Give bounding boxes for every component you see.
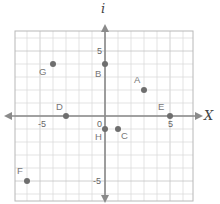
x-tick-label: -5 xyxy=(38,119,46,129)
y-axis-title: i xyxy=(101,1,105,16)
x-axis-left-arrow-icon xyxy=(4,112,12,120)
x-tick-label: 5 xyxy=(168,119,173,129)
point-label-h: H xyxy=(95,131,102,142)
point-g xyxy=(50,61,56,67)
point-a xyxy=(141,87,147,93)
coordinate-plane: -5055-5 ABCDEFGH X i xyxy=(0,0,220,204)
y-axis-down-arrow-icon xyxy=(101,195,109,203)
point-d xyxy=(63,113,69,119)
point-label-f: F xyxy=(17,165,23,176)
point-h xyxy=(102,126,108,132)
point-label-c: C xyxy=(121,130,128,141)
y-axis-up-arrow-icon xyxy=(101,24,109,32)
x-axis-title: X xyxy=(203,108,214,123)
y-tick-label: 5 xyxy=(97,46,102,56)
point-label-g: G xyxy=(39,66,46,77)
x-tick-label: 0 xyxy=(97,119,102,129)
y-tick-label: -5 xyxy=(93,176,101,186)
point-e xyxy=(167,113,173,119)
point-f xyxy=(24,178,30,184)
x-axis-right-arrow-icon xyxy=(195,112,203,120)
point-label-b: B xyxy=(95,68,101,79)
point-label-e: E xyxy=(158,101,164,112)
point-label-a: A xyxy=(134,74,141,85)
point-label-d: D xyxy=(56,101,63,112)
point-b xyxy=(102,61,108,67)
